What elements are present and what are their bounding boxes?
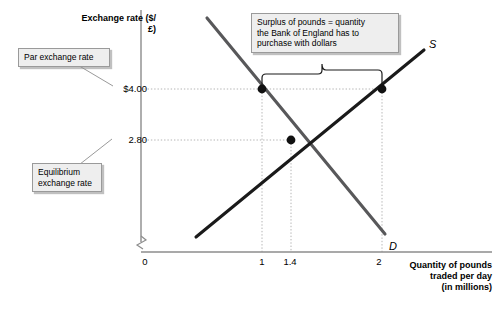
callout-surplus-of-pounds: Surplus of pounds = quantity the Bank of… xyxy=(251,13,399,53)
callout-par-exchange-rate: Par exchange rate xyxy=(18,48,110,67)
y-axis-title: Exchange rate ($/£) xyxy=(78,13,156,35)
marker-quantity-demanded-at-par xyxy=(258,85,267,94)
supply-curve xyxy=(196,50,424,237)
marker-equilibrium xyxy=(287,136,296,145)
y-tick-label-equilibrium: 2.80 xyxy=(95,134,147,145)
demand-curve-label: D xyxy=(389,240,397,252)
chart-figure: Exchange rate ($/£) $4.00 2.80 0 1 1.4 2… xyxy=(0,0,498,312)
x-axis-title: Quantity of pounds traded per day (in mi… xyxy=(392,260,492,293)
x-tick-label-2: 2 xyxy=(364,256,394,267)
x-tick-label-1-4: 1.4 xyxy=(275,256,305,267)
marker-quantity-supplied-at-par xyxy=(378,85,387,94)
supply-curve-label: S xyxy=(429,38,436,50)
x-tick-label-1: 1 xyxy=(247,256,277,267)
y-tick-label-par: $4.00 xyxy=(95,83,147,94)
surplus-bracket xyxy=(262,64,382,89)
callout-equilibrium-exchange-rate: Equilibrium exchange rate xyxy=(32,163,102,192)
x-tick-label-origin: 0 xyxy=(130,256,160,267)
